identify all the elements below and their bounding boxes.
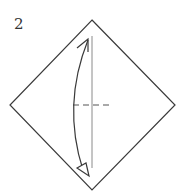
origami-diagram <box>0 0 187 192</box>
